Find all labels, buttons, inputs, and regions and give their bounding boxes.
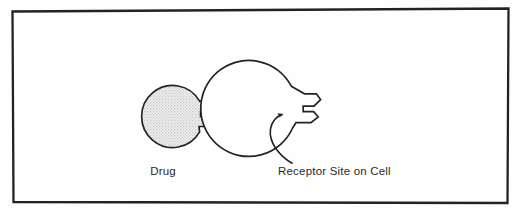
figure-container: Drug Receptor Site on Cell xyxy=(0,0,520,215)
drug-receptor-diagram: Drug Receptor Site on Cell xyxy=(0,0,520,215)
receptor-label: Receptor Site on Cell xyxy=(278,165,391,177)
drug-label: Drug xyxy=(150,165,176,177)
